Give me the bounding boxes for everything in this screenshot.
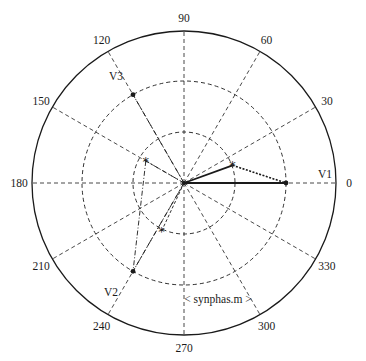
angle-label-60: 60 <box>261 34 273 46</box>
phasor-dot-v2 <box>131 269 136 274</box>
origin-dot <box>182 181 186 185</box>
label-v3: V3 <box>109 70 123 82</box>
label-v1: V1 <box>318 168 332 180</box>
angle-label-270: 270 <box>175 342 193 354</box>
angle-label-150: 150 <box>32 95 50 107</box>
angle-label-180: 180 <box>10 177 28 189</box>
label-v2: V2 <box>104 286 118 298</box>
spoke-210 <box>52 183 184 259</box>
star-right-marker: * <box>229 158 236 173</box>
spoke-330 <box>184 183 316 259</box>
star-upper-left-marker: * <box>143 154 150 169</box>
angle-label-300: 300 <box>258 320 276 332</box>
angle-label-30: 30 <box>321 95 333 107</box>
component-upper-left-to-v2 <box>133 161 146 271</box>
angle-label-120: 120 <box>93 34 111 46</box>
angle-label-330: 330 <box>318 260 336 272</box>
plot-title: < synphas.m > <box>184 293 252 306</box>
component-upper-left <box>146 161 184 183</box>
polar-plot: *** 0306090120150180210240270300330 < sy… <box>0 0 366 361</box>
phasor-dot-v1 <box>284 181 289 186</box>
spoke-60 <box>184 51 260 183</box>
component-lower <box>162 183 184 231</box>
angle-label-210: 210 <box>32 260 50 272</box>
angle-label-240: 240 <box>93 320 111 332</box>
component-right-to-v1 <box>233 165 286 183</box>
phasor-dot-v3 <box>131 92 136 97</box>
angle-label-90: 90 <box>178 12 190 24</box>
polar-phasor-diagram: *** 0306090120150180210240270300330 < sy… <box>0 0 366 361</box>
component-right <box>184 165 233 183</box>
angle-label-0: 0 <box>346 177 352 189</box>
star-lower-marker: * <box>158 224 165 239</box>
